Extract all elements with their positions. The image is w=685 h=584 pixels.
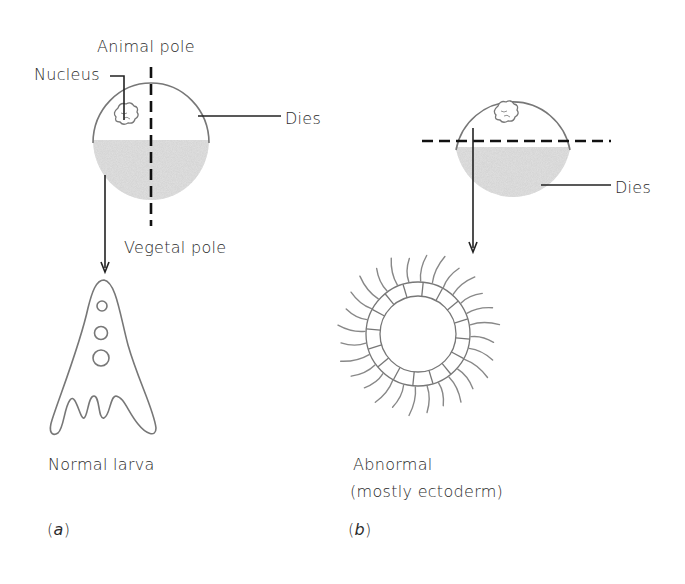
cell-wall xyxy=(429,370,433,383)
cilium xyxy=(449,377,461,402)
cilium xyxy=(467,308,493,314)
cilium xyxy=(409,387,416,416)
cell-wall xyxy=(403,284,407,297)
embryo-bisection-diagram: Animal pole Nucleus Dies Vegetal pole xyxy=(0,0,685,584)
cell-wall xyxy=(442,363,451,374)
cilium xyxy=(420,255,426,281)
larva-circle-large xyxy=(93,350,109,366)
cell-wall xyxy=(366,329,380,330)
vegetal-pole-label: Vegetal pole xyxy=(124,238,226,257)
cilium xyxy=(443,268,459,287)
egg-a xyxy=(90,83,215,205)
panel-b-label: (b) xyxy=(348,520,372,539)
larva-circle-medium xyxy=(95,327,108,340)
cilium xyxy=(393,385,404,407)
cell-wall xyxy=(447,301,458,310)
cilium xyxy=(432,257,445,283)
cilium xyxy=(351,365,375,376)
cilium xyxy=(338,325,365,331)
cilium xyxy=(470,323,499,325)
cilium xyxy=(375,381,392,403)
dies-label-b: Dies xyxy=(615,178,651,197)
cilium xyxy=(439,383,444,406)
mostly-ectoderm-label: (mostly ectoderm) xyxy=(350,482,503,501)
larva-circle-small xyxy=(97,301,107,311)
cell-wall xyxy=(372,309,384,316)
cell-wall xyxy=(454,319,467,323)
cell-wall xyxy=(436,288,443,300)
cilium xyxy=(469,348,493,360)
arrow-down-icon-b xyxy=(469,128,477,252)
cell-wall xyxy=(368,345,381,349)
animal-pole-label: Animal pole xyxy=(97,37,195,56)
cilium xyxy=(391,258,397,285)
normal-larva xyxy=(50,280,156,434)
nucleus-label: Nucleus xyxy=(34,65,100,84)
cell-wall xyxy=(413,372,414,386)
cilium xyxy=(346,309,367,320)
abnormal-label: Abnormal xyxy=(353,455,433,474)
panel-a-label: (a) xyxy=(47,520,70,539)
cilium xyxy=(471,336,494,342)
cilium xyxy=(458,369,473,389)
cilium xyxy=(341,355,369,362)
normal-larva-label: Normal larva xyxy=(48,455,155,474)
cell-wall xyxy=(393,367,400,379)
cilium xyxy=(427,386,429,412)
cilium xyxy=(364,374,383,388)
dies-label-a: Dies xyxy=(285,109,321,128)
arrow-down-icon xyxy=(101,175,109,272)
abnormal-blastula xyxy=(338,255,499,415)
cell-wall xyxy=(422,282,423,296)
cilium xyxy=(465,359,488,377)
cell-wall xyxy=(378,358,389,367)
cilium xyxy=(351,292,371,309)
cilium xyxy=(360,276,378,299)
cell-wall xyxy=(385,294,394,305)
panel-a: Animal pole Nucleus Dies Vegetal pole xyxy=(34,37,321,539)
egg-b xyxy=(452,101,577,202)
cilium xyxy=(407,258,409,281)
cell-wall xyxy=(451,352,463,359)
cilium xyxy=(453,277,475,294)
panel-b: Dies Abnormal (mostly ectoderm) (b) xyxy=(338,101,651,539)
cell-wall xyxy=(456,338,470,339)
cilium xyxy=(461,293,482,303)
cilium xyxy=(377,268,387,290)
cilium xyxy=(341,343,366,345)
